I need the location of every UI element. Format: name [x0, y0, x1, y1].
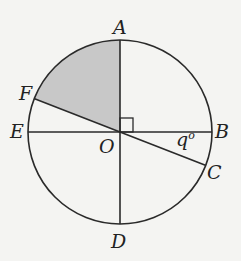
shaded-sector-aof [35, 40, 120, 132]
label-d: D [111, 232, 126, 251]
label-e: E [10, 122, 24, 141]
right-angle-marker [120, 118, 133, 132]
label-o: O [99, 137, 115, 156]
label-q-angle: qo [176, 130, 195, 149]
label-f: F [19, 84, 32, 103]
label-c: C [207, 163, 222, 182]
circle-diagram [0, 0, 241, 261]
label-a: A [113, 18, 127, 37]
label-b: B [215, 122, 229, 141]
